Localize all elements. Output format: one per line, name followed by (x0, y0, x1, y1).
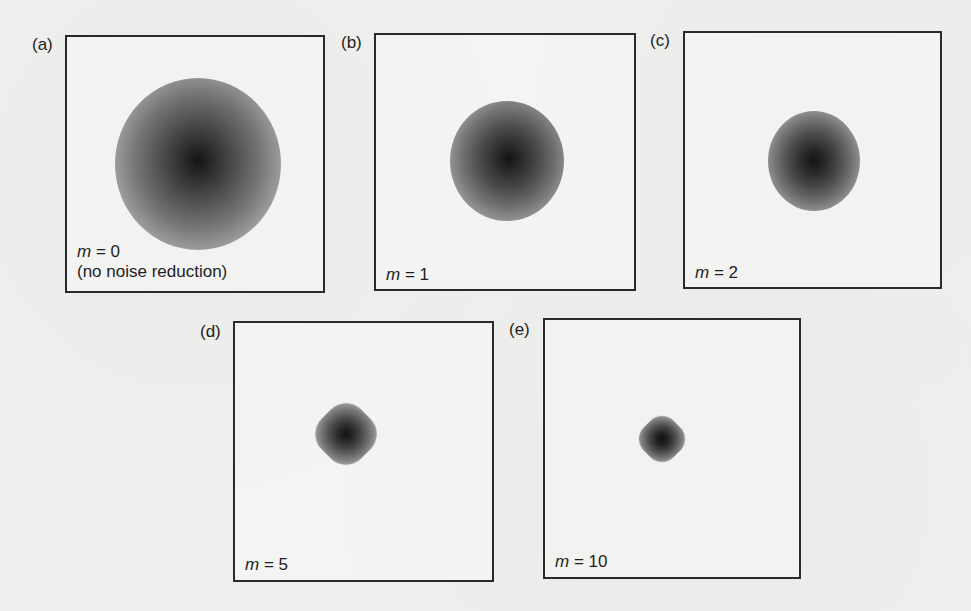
panel-d: m = 5 (233, 321, 494, 582)
panel-d-cluster-image (306, 394, 385, 473)
panel-e-cluster-image (632, 409, 691, 468)
panel-a-note: (no noise reduction) (77, 262, 227, 281)
panel-c-cluster-image (768, 111, 860, 211)
panel-c: m = 2 (683, 31, 942, 289)
panel-b-label: (b) (341, 34, 362, 51)
panel-b: m = 1 (374, 33, 636, 291)
panel-c-parameter: m = 2 (695, 263, 738, 283)
panel-d-parameter: m = 5 (245, 555, 288, 575)
panel-a-label: (a) (32, 36, 53, 53)
panel-a-parameter: m = 0 (no noise reduction) (77, 242, 227, 281)
panel-e: m = 10 (543, 318, 801, 579)
panel-e-parameter: m = 10 (555, 552, 607, 572)
panel-b-cluster-image (450, 101, 564, 221)
panel-c-label: (c) (650, 32, 670, 49)
panel-d-label: (d) (200, 323, 221, 340)
panel-b-parameter: m = 1 (386, 265, 429, 285)
panel-e-label: (e) (509, 321, 530, 338)
panel-a-cluster-image (115, 78, 281, 250)
panel-a: m = 0 (no noise reduction) (65, 35, 325, 293)
